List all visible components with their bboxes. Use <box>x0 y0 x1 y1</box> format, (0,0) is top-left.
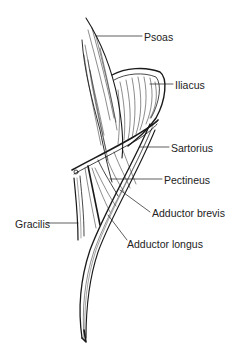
label-psoas: Psoas <box>144 31 173 43</box>
pectineus-muscle <box>98 148 136 196</box>
label-gracilis: Gracilis <box>15 218 50 230</box>
label-iliacus: Iliacus <box>175 79 205 91</box>
label-sartorius: Sartorius <box>171 142 213 154</box>
gracilis-muscle <box>74 176 84 240</box>
sartorius-muscle <box>80 124 155 342</box>
label-adductor-brevis: Adductor brevis <box>152 207 225 219</box>
label-pectineus: Pectineus <box>164 174 210 186</box>
label-adductor-longus: Adductor longus <box>127 238 203 250</box>
psoas-muscle <box>82 18 123 182</box>
adductor-muscles <box>85 166 116 228</box>
